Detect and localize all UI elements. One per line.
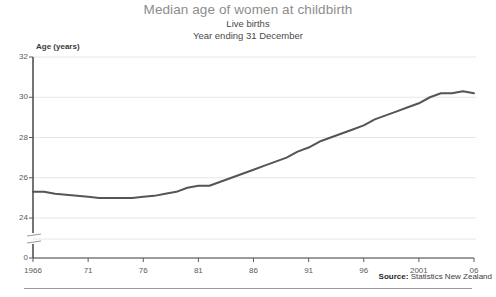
x-tick-label: 86 <box>234 266 274 275</box>
footer-divider <box>24 288 472 289</box>
source-value: Statistics New Zealand <box>411 272 492 281</box>
chart-title-block: Median age of women at childbirth Live b… <box>0 2 496 42</box>
x-tick-label: 1966 <box>13 266 53 275</box>
y-tick-label: 26 <box>4 173 28 182</box>
chart-subtitle: Live births <box>0 18 496 30</box>
source-note: Source: Statistics New Zealand <box>379 272 492 281</box>
x-tick-label: 76 <box>123 266 163 275</box>
source-label: Source: <box>379 272 409 281</box>
y-axis-title: Age (years) <box>36 42 80 51</box>
y-tick-label: 24 <box>4 213 28 222</box>
axis-break-mark <box>27 234 41 236</box>
x-tick-label: 81 <box>178 266 218 275</box>
y-tick-label: 30 <box>4 92 28 101</box>
chart-figure: Median age of women at childbirth Live b… <box>0 0 496 297</box>
chart-title: Median age of women at childbirth <box>0 2 496 18</box>
data-series-line <box>33 91 474 198</box>
x-tick-label: 71 <box>68 266 108 275</box>
axis-break-mark <box>27 241 41 243</box>
y-tick-label: 28 <box>4 133 28 142</box>
y-tick-label: 0 <box>4 253 28 262</box>
y-tick-label: 32 <box>4 52 28 61</box>
x-tick-label: 91 <box>289 266 329 275</box>
chart-subtitle-secondary: Year ending 31 December <box>0 30 496 42</box>
